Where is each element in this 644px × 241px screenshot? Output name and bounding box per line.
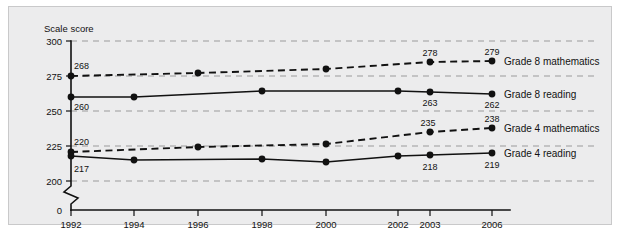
series-label-grade-8-reading: Grade 8 reading: [504, 89, 576, 100]
data-label: 278: [422, 48, 437, 58]
data-point: [131, 157, 138, 164]
data-point: [427, 89, 434, 96]
data-point: [489, 150, 496, 157]
series-label-grade-8-mathematics: Grade 8 mathematics: [504, 56, 600, 67]
data-point: [395, 153, 402, 160]
x-tick-label-1994: 1994: [123, 219, 144, 230]
data-point: [427, 59, 434, 66]
data-label: 235: [420, 118, 435, 128]
data-point: [489, 91, 496, 98]
data-point: [68, 73, 75, 80]
data-point: [195, 70, 202, 77]
data-point: [323, 141, 330, 148]
data-label: 279: [484, 47, 499, 57]
data-point: [323, 66, 330, 73]
data-point: [323, 159, 330, 166]
x-tick-label-2006: 2006: [481, 219, 502, 230]
data-point: [427, 152, 434, 159]
series-grade-8-reading: 260 263 262 Grade 8 reading: [68, 88, 577, 112]
data-point: [259, 88, 266, 95]
y-tick-label-300: 300: [46, 36, 62, 47]
x-tick-label-2003: 2003: [419, 219, 440, 230]
data-label: 219: [484, 160, 499, 170]
data-label: 238: [484, 114, 499, 124]
data-point: [395, 88, 402, 95]
y-tick-label-275: 275: [46, 71, 62, 82]
data-label: 220: [74, 137, 89, 147]
y-tick-label-250: 250: [46, 106, 62, 117]
data-point: [68, 153, 75, 160]
data-label: 262: [484, 100, 499, 110]
series-grade-8-mathematics: 268 278 279 Grade 8 mathematics: [68, 47, 600, 79]
y-tick-label-225: 225: [46, 141, 62, 152]
data-point: [489, 58, 496, 65]
data-point: [195, 144, 202, 151]
data-label: 217: [74, 164, 89, 174]
x-tick-label-1992: 1992: [60, 219, 81, 230]
data-label: 260: [74, 102, 89, 112]
y-tick-label-0: 0: [57, 205, 62, 216]
x-tick-label-2000: 2000: [315, 219, 336, 230]
data-point: [489, 125, 496, 132]
line-chart: Scale score 300 275 250 225 200 0 1992 1…: [0, 0, 644, 241]
x-tick-label-1996: 1996: [187, 219, 208, 230]
series-grade-4-reading: 217 218 219 Grade 4 reading: [68, 148, 577, 174]
x-tick-label-1998: 1998: [251, 219, 272, 230]
data-label: 218: [422, 162, 437, 172]
data-point: [131, 94, 138, 101]
y-axis-title: Scale score: [44, 23, 94, 34]
series-label-grade-4-reading: Grade 4 reading: [504, 148, 576, 159]
x-tick-label-2002: 2002: [387, 219, 408, 230]
data-point: [68, 94, 75, 101]
data-label: 263: [422, 98, 437, 108]
series-label-grade-4-mathematics: Grade 4 mathematics: [504, 123, 600, 134]
data-label: 268: [74, 61, 89, 71]
data-point: [427, 129, 434, 136]
x-axis-ticks: [71, 210, 492, 216]
y-tick-label-200: 200: [46, 176, 62, 187]
data-point: [259, 156, 266, 163]
